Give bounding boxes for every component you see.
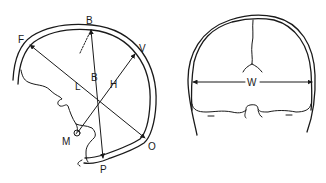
label-B-top: B: [86, 15, 93, 26]
label-M: M: [62, 136, 70, 147]
label-L: L: [75, 81, 81, 92]
length-line-L: [30, 45, 145, 138]
label-W: W: [247, 77, 257, 88]
label-H: H: [110, 79, 117, 90]
label-P: P: [100, 164, 107, 175]
label-V: V: [139, 43, 146, 54]
skull-measurement-diagram: F B V L B H M O P W: [0, 0, 326, 183]
frontal-base-contour: [192, 104, 311, 113]
label-F: F: [18, 34, 24, 45]
lateral-face-profile: [21, 70, 95, 162]
height-line-H: [78, 54, 135, 132]
label-B-mid: B: [91, 72, 98, 83]
frontal-skull-view: W: [188, 15, 315, 135]
lateral-inner-contour: [18, 29, 150, 158]
bregma-tick: [80, 30, 91, 53]
label-O: O: [148, 141, 156, 152]
lateral-skull-view: F B V L B H M O P: [13, 15, 156, 175]
sagittal-suture: [243, 20, 262, 72]
